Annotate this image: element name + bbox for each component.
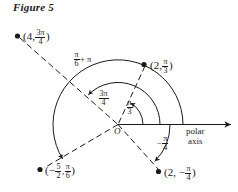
dashed-ray-neg-pi-4	[118, 125, 159, 171]
point-label-open: (2, −	[164, 166, 185, 178]
fraction-numerator: 5	[55, 163, 61, 171]
fraction-numerator: π	[162, 58, 168, 66]
origin-label: O	[114, 126, 121, 136]
fraction-numerator: π	[65, 163, 71, 171]
fraction-denominator: 3	[162, 66, 168, 75]
point-label-close: )	[192, 166, 196, 178]
fraction-5-2: 52	[55, 163, 61, 180]
fraction-denominator: 6	[65, 171, 71, 180]
polar-coordinate-figure: Figure 5 (4,3π4) (2,π3) (−52,π6) (2, −π4…	[0, 0, 238, 192]
polar-axis-label-line2: axis	[186, 136, 205, 146]
dashed-ray-pi-6-extension	[44, 125, 118, 169]
angle-label-prefix: −	[157, 138, 162, 148]
fraction-pi-6: π6	[65, 163, 71, 180]
fraction-numerator: π	[185, 165, 191, 173]
point-label-open: (4,	[23, 30, 35, 42]
fraction-numerator: π	[74, 51, 80, 59]
angle-label-pi-3: π3	[126, 99, 133, 116]
fraction-denominator: 4	[162, 143, 168, 152]
fraction-numerator: 3π	[35, 29, 45, 37]
point-dot-2-pi-3	[141, 62, 146, 67]
point-label-close: )	[46, 30, 50, 42]
fraction-pi-4: π4	[162, 135, 168, 152]
fraction-denominator: 6	[74, 59, 80, 68]
point-label-2-neg-pi-4: (2, −π4)	[164, 165, 196, 182]
fraction-pi-3: π3	[162, 58, 168, 75]
fraction-pi-3: π3	[127, 99, 133, 116]
fraction-denominator: 2	[55, 171, 61, 180]
dashed-ray-3pi-4	[20, 38, 118, 125]
point-label-close: )	[71, 164, 75, 176]
point-dot-neg5-2-pi-6	[37, 167, 42, 172]
point-label-2-pi-3: (2,π3)	[150, 58, 173, 75]
polar-axis-label: polar axis	[186, 126, 205, 147]
fraction-denominator: 4	[35, 37, 45, 46]
point-dot-2-neg-pi-4	[156, 169, 161, 174]
fraction-pi-6: π6	[74, 51, 80, 68]
point-label-neg5-2-pi-6: (−52,π6)	[45, 163, 75, 180]
fraction-pi-4: π4	[185, 165, 191, 182]
fraction-denominator: 4	[99, 98, 109, 107]
fraction-numerator: π	[127, 99, 133, 107]
angle-label-neg-pi-4: −π4	[157, 135, 169, 152]
angle-label-pi-6-plus-pi: π6+ π	[73, 51, 91, 68]
point-label-open: (2,	[150, 59, 162, 71]
fraction-denominator: 3	[127, 107, 133, 116]
angle-label-suffix: + π	[80, 54, 91, 64]
fraction-denominator: 4	[185, 173, 191, 182]
point-label-open: (−	[45, 164, 55, 176]
point-dot-4-3pi-4	[15, 33, 20, 38]
point-label-4-3pi-4: (4,3π4)	[23, 29, 50, 46]
fraction-numerator: π	[162, 135, 168, 143]
fraction-3pi-4: 3π4	[99, 90, 109, 107]
angle-label-3pi-4: 3π4	[98, 90, 109, 107]
fraction-3pi-4: 3π4	[35, 29, 45, 46]
polar-axis-label-line1: polar	[186, 126, 205, 136]
point-label-close: )	[169, 59, 173, 71]
figure-title: Figure 5	[13, 1, 54, 13]
fraction-numerator: 3π	[99, 90, 109, 98]
